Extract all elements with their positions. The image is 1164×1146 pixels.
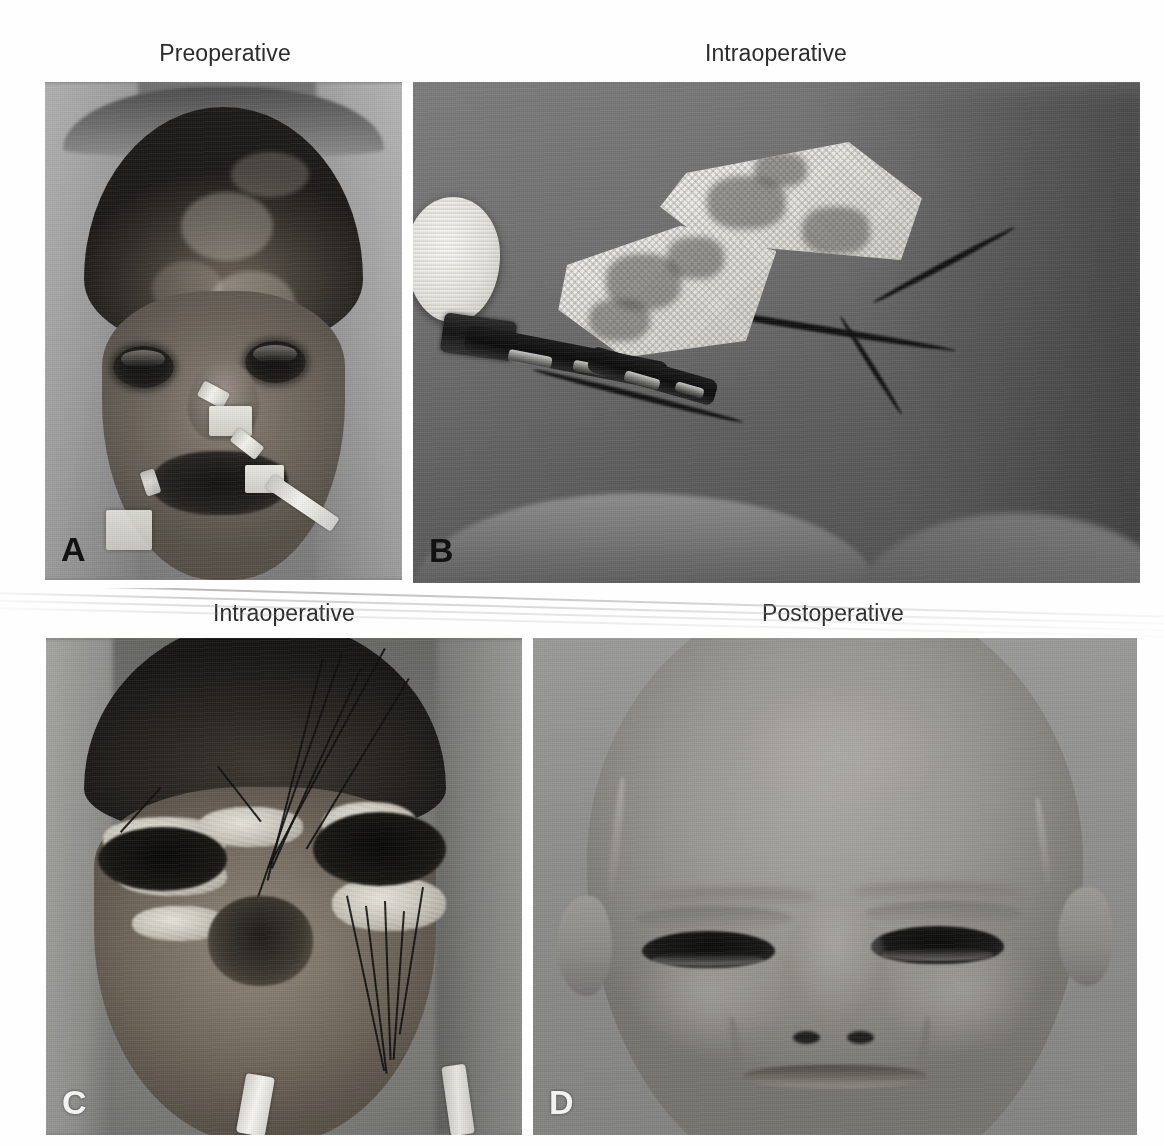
panel-b-intraoperative-donor[interactable]: B bbox=[413, 82, 1140, 583]
panel-c-intraoperative-face[interactable]: C bbox=[46, 638, 522, 1135]
panel-a-photograph bbox=[45, 82, 402, 580]
panel-letter-c: C bbox=[62, 1085, 87, 1119]
panel-c-photograph bbox=[46, 638, 522, 1135]
caption-intraoperative-bottom: Intraoperative bbox=[213, 600, 355, 627]
panel-d-postoperative[interactable]: D bbox=[533, 638, 1137, 1135]
caption-preoperative: Preoperative bbox=[159, 40, 291, 67]
panel-letter-a: A bbox=[61, 532, 86, 566]
panel-letter-b: B bbox=[429, 533, 454, 567]
panel-d-photograph bbox=[533, 638, 1137, 1135]
panel-b-photograph bbox=[413, 82, 1140, 583]
caption-postoperative: Postoperative bbox=[762, 600, 904, 627]
caption-intraoperative-top: Intraoperative bbox=[705, 40, 847, 67]
figure-sheet: Preoperative Intraoperative bbox=[0, 0, 1164, 1146]
panel-letter-d: D bbox=[549, 1085, 574, 1119]
panel-a-preoperative[interactable]: A bbox=[45, 82, 402, 580]
